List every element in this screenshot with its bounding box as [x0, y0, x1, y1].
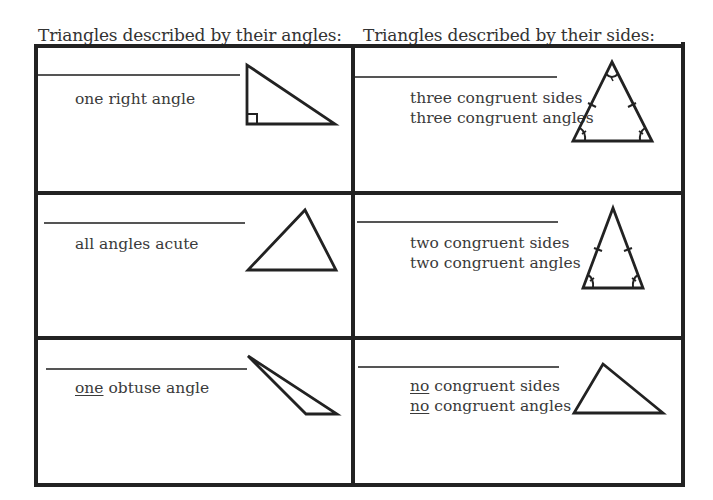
border-top — [34, 44, 685, 48]
heading-angles: Triangles described by their angles: — [38, 25, 342, 45]
right-triangle-icon — [240, 60, 340, 130]
description-emphasis: one — [75, 379, 104, 397]
isosceles-triangle-icon — [580, 203, 650, 293]
answer-line[interactable] — [355, 76, 557, 78]
divider-row-2 — [34, 336, 685, 340]
answer-line[interactable] — [358, 366, 559, 368]
scalene-triangle-icon — [570, 358, 670, 418]
answer-line[interactable] — [44, 222, 245, 224]
description-text: all angles acute — [75, 235, 199, 253]
description-line: no congruent sides — [410, 376, 571, 396]
divider-vertical — [351, 44, 355, 487]
description: two congruent sides two congruent angles — [410, 233, 581, 273]
answer-line[interactable] — [38, 74, 240, 76]
divider-row-1 — [34, 191, 685, 195]
description: one obtuse angle — [75, 378, 209, 398]
border-right — [681, 42, 685, 487]
answer-line[interactable] — [357, 221, 558, 223]
description: all angles acute — [75, 234, 199, 254]
description-emphasis: no — [410, 377, 429, 395]
description: no congruent sides no congruent angles — [410, 376, 571, 416]
border-bottom — [34, 483, 685, 487]
description-text: obtuse angle — [104, 379, 210, 397]
description-line: no congruent angles — [410, 396, 571, 416]
description-line: three congruent angles — [410, 108, 594, 128]
description-line: two congruent angles — [410, 253, 581, 273]
description-emphasis: no — [410, 397, 429, 415]
equilateral-triangle-icon — [570, 58, 660, 148]
description-line: two congruent sides — [410, 233, 581, 253]
border-left — [34, 44, 38, 487]
description: three congruent sides three congruent an… — [410, 88, 594, 128]
heading-sides: Triangles described by their sides: — [363, 25, 655, 45]
description: one right angle — [75, 89, 195, 109]
obtuse-triangle-icon — [245, 352, 345, 422]
description-text: one right angle — [75, 90, 195, 108]
description-line: three congruent sides — [410, 88, 594, 108]
acute-triangle-icon — [240, 205, 340, 275]
answer-line[interactable] — [46, 368, 247, 370]
